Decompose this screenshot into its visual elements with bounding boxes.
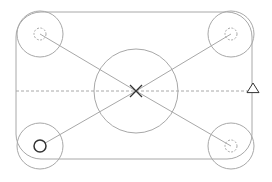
diagram-canvas — [0, 0, 272, 182]
sketch-svg — [0, 0, 272, 182]
diagonal-line-bottom-right — [136, 91, 231, 146]
triangle-marker-icon[interactable] — [247, 83, 259, 93]
outer-rounded-rectangle — [16, 12, 252, 159]
diagonal-line-top-left — [40, 34, 136, 91]
diagonal-line-bottom-left — [40, 91, 136, 146]
diagonal-line-top-right — [136, 34, 231, 91]
hole-circle-bottom-left — [34, 140, 46, 152]
